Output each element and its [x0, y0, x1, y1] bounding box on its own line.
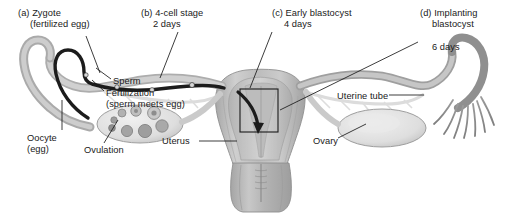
reproductive-tract-diagram: (a) Zygote (fertilized egg) (b) 4-cell s…: [0, 0, 518, 213]
leader-sperm: [96, 68, 111, 79]
stage-label-four-cell-marker: (b) 4-cell stage: [141, 8, 203, 18]
stage-label-four-cell: (b) 4-cell stage 2 days: [141, 8, 203, 31]
stage-label-implanting-time: 6 days: [420, 42, 478, 53]
stage-label-early-blastocyst-marker: (c) Early blastocyst: [272, 8, 352, 18]
part-label-ovulation: Ovulation: [84, 145, 124, 156]
stage-label-implanting-marker: (d) Implanting: [420, 8, 478, 18]
leader-four-cell: [160, 32, 178, 78]
part-label-ovary: Ovary: [313, 136, 338, 147]
stage-label-zygote: (a) Zygote (fertilized egg): [18, 8, 90, 31]
stage-label-early-blastocyst: (c) Early blastocyst 4 days: [272, 8, 352, 31]
part-label-oocyte-detail: (egg): [27, 144, 49, 154]
leader-zygote: [86, 36, 100, 73]
stage-label-implanting-blastocyst: (d) Implanting blastocyst 6 days: [420, 8, 478, 54]
cervix-and-vagina: [231, 163, 292, 212]
stage-label-zygote-marker: (a) Zygote: [18, 8, 61, 18]
stage-label-zygote-detail: (fertilized egg): [18, 19, 90, 30]
part-label-uterine-tube: Uterine tube: [337, 91, 388, 102]
part-label-sperm: Sperm: [113, 76, 141, 87]
part-label-fertilization-text: Fertilization: [106, 88, 154, 98]
stage-label-implanting-detail: blastocyst: [420, 19, 478, 30]
part-label-uterus: Uterus: [162, 136, 190, 147]
part-label-fertilization-detail: (sperm meets egg): [106, 99, 185, 109]
part-label-fertilization: Fertilization (sperm meets egg): [106, 88, 185, 111]
stage-label-early-blastocyst-detail: 4 days: [272, 19, 352, 30]
part-label-oocyte-text: Oocyte: [27, 133, 57, 143]
uterus-body: [216, 69, 306, 164]
stage-label-four-cell-detail: 2 days: [141, 19, 203, 30]
part-label-oocyte: Oocyte (egg): [27, 133, 57, 156]
